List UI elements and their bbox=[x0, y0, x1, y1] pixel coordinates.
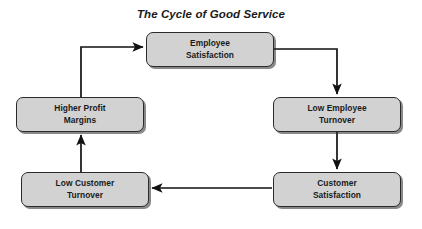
cycle-diagram: The Cycle of Good Service Employee Sa bbox=[0, 0, 422, 229]
node-employee-satisfaction: Employee Satisfaction bbox=[146, 32, 274, 67]
node-label: Employee Satisfaction bbox=[186, 38, 234, 60]
edge-profit-to-employee bbox=[81, 47, 143, 97]
node-label: Customer Satisfaction bbox=[313, 178, 361, 200]
edge-employee-to-low-employee bbox=[274, 49, 337, 94]
node-label: Low Employee Turnover bbox=[307, 103, 366, 125]
node-low-employee-turnover: Low Employee Turnover bbox=[273, 97, 401, 132]
node-higher-profit-margins: Higher Profit Margins bbox=[16, 97, 144, 132]
node-low-customer-turnover: Low Customer Turnover bbox=[21, 172, 149, 207]
node-label: Low Customer Turnover bbox=[56, 178, 115, 200]
node-customer-satisfaction: Customer Satisfaction bbox=[273, 172, 401, 207]
node-label: Higher Profit Margins bbox=[54, 103, 105, 125]
